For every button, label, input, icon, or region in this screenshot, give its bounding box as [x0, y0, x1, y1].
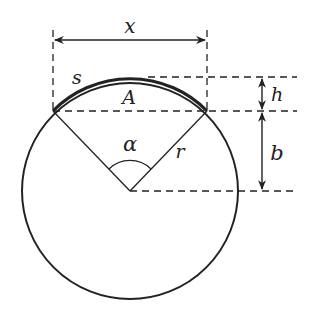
- circular-segment-diagram: x s A α r h b: [0, 0, 318, 325]
- label-x: x: [124, 14, 135, 38]
- label-A: A: [120, 86, 136, 108]
- radius-left: [53, 111, 130, 191]
- label-h: h: [271, 83, 283, 105]
- angle-alpha-arc: [109, 160, 151, 169]
- radius-right: [130, 111, 207, 191]
- label-s: s: [72, 66, 82, 88]
- label-r: r: [175, 140, 186, 162]
- dashed-guides: [53, 30, 297, 191]
- label-alpha: α: [123, 132, 137, 156]
- label-b: b: [270, 141, 283, 165]
